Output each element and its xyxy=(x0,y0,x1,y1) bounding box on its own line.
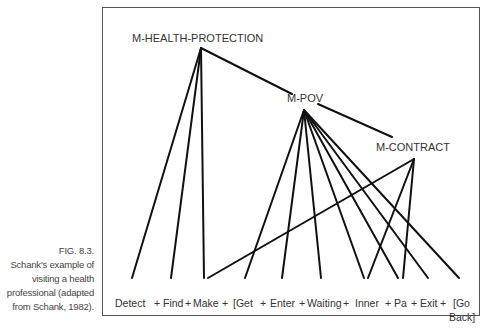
node-m-contract: M-CONTRACT xyxy=(376,141,450,153)
edge-root-find xyxy=(171,48,201,278)
leaf-find: Find xyxy=(163,297,183,309)
plus-sign: + xyxy=(154,297,160,309)
edge-pov-enter xyxy=(282,110,304,278)
caption-line: visiting a health xyxy=(0,272,94,286)
edge-contract-inner xyxy=(368,159,414,278)
leaf-detect: Detect xyxy=(115,297,145,309)
caption-line: professional (adapted xyxy=(0,286,94,300)
caption-line: Schank's example of xyxy=(0,258,94,272)
edge-pov-goback xyxy=(304,110,459,278)
edge-root-pov xyxy=(201,48,292,94)
leaf-enter: Enter xyxy=(270,297,295,309)
leaf-waiting: Waiting xyxy=(307,297,342,309)
leaf-make: Make xyxy=(193,297,219,309)
node-m-pov: M-POV xyxy=(287,92,323,104)
plus-sign: + xyxy=(411,297,417,309)
plus-sign: + xyxy=(440,297,446,309)
caption-line: FIG. 8.3. xyxy=(0,244,94,258)
leaf-go: [Go xyxy=(453,297,470,309)
edge-pov-get xyxy=(245,110,304,278)
edge-root-detect xyxy=(132,48,201,278)
caption-line: from Schank, 1982). xyxy=(0,300,94,314)
plus-sign: + xyxy=(222,297,228,309)
edge-pov-contract xyxy=(318,104,392,137)
plus-sign: + xyxy=(343,297,349,309)
plus-sign: + xyxy=(260,297,266,309)
leaf-exit: Exit xyxy=(420,297,438,309)
plus-sign: + xyxy=(385,297,391,309)
edge-root-make xyxy=(201,48,204,278)
edge-pov-exit xyxy=(304,110,428,278)
leaf-get: [Get xyxy=(233,297,253,309)
plus-sign: + xyxy=(185,297,191,309)
figure-caption: FIG. 8.3. Schank's example of visiting a… xyxy=(0,244,94,314)
leaf-back: Back] xyxy=(449,311,475,323)
leaf-pa: Pa xyxy=(394,297,407,309)
leaf-inner: Inner xyxy=(355,297,379,309)
node-m-health-protection: M-HEALTH-PROTECTION xyxy=(132,32,263,44)
plus-sign: + xyxy=(299,297,305,309)
